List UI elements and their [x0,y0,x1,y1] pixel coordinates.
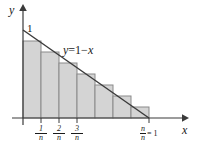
x-axis-ticks [41,118,149,123]
tick-label-n-over-n-fraction: n n [140,125,146,143]
x-axis-arrowhead [182,114,189,122]
tick-label-3-over-n: 3 n [71,125,83,143]
curve-equation-label: y=1−x [63,44,93,56]
y-axis-arrowhead [19,4,27,11]
tick-label-n-over-n-denominator: n [140,133,146,142]
tick-label-2-over-n-denominator: n [53,133,65,142]
tick-label-2-over-n: 2 n [53,125,65,143]
y-axis-label: y [9,4,14,16]
tick-label-n-over-n-numerator: n [140,125,146,133]
tick-label-n-over-n-suffix: = 1 [147,129,158,138]
tick-label-3-over-n-numerator: 3 [71,125,83,133]
tick-label-3-over-n-denominator: n [71,133,83,142]
curve-eq-minus: − [81,43,88,57]
bar-5 [95,85,113,118]
bar-3 [59,63,77,118]
y-intercept-label: 1 [27,23,33,34]
tick-label-n-over-n: n n = 1 [140,125,158,143]
x-axis-label: x [182,124,187,136]
tick-label-1-over-n-numerator: 1 [35,125,47,133]
bar-2 [41,52,59,118]
tick-label-1-over-n-denominator: n [35,133,47,142]
bar-1 [23,41,41,118]
bar-4 [77,74,95,118]
tick-label-2-over-n-numerator: 2 [53,125,65,133]
riemann-sum-figure: y x 1 y=1−x 1 n 2 n 3 n n n = 1 [0,0,198,153]
curve-eq-x: x [88,43,93,57]
tick-label-1-over-n: 1 n [35,125,47,143]
